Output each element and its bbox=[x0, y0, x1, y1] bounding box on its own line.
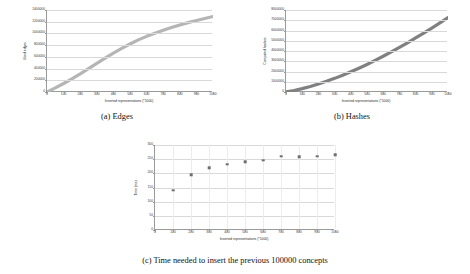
data-point bbox=[298, 155, 301, 158]
chart-edges: 0200000400000600000800000100000012000001… bbox=[8, 6, 226, 106]
y-tick-label: 1400000 bbox=[32, 8, 45, 11]
y-tick-label: 2000000 bbox=[271, 70, 284, 73]
x-tick-mark bbox=[245, 230, 246, 232]
y-tick-label: 6000000 bbox=[271, 29, 284, 32]
gridline-horizontal bbox=[286, 51, 447, 52]
x-tick-mark bbox=[173, 230, 174, 232]
gridline-vertical bbox=[209, 145, 210, 229]
x-axis-title-insert-time: Inserted representations (*1000) bbox=[154, 237, 334, 241]
y-tick-mark bbox=[153, 159, 155, 160]
chart-hashes: 0100000020000003000000400000050000006000… bbox=[243, 6, 461, 106]
data-point bbox=[226, 163, 229, 166]
x-tick-mark bbox=[209, 230, 210, 232]
x-tick-mark bbox=[180, 92, 181, 94]
x-axis-title-hashes: Inserted representations (*1000) bbox=[285, 99, 447, 103]
y-tick-mark bbox=[45, 57, 47, 58]
x-tick-mark bbox=[227, 230, 228, 232]
y-tick-mark bbox=[45, 45, 47, 46]
y-axis-title-edges: Used edges bbox=[23, 42, 27, 60]
gridline-vertical bbox=[245, 145, 246, 229]
data-point bbox=[244, 161, 247, 164]
y-tick-mark bbox=[153, 216, 155, 217]
y-tick-label: 400000 bbox=[34, 67, 45, 70]
x-tick-mark bbox=[383, 92, 384, 94]
gridline-horizontal bbox=[286, 82, 447, 83]
gridline-vertical bbox=[263, 145, 264, 229]
y-tick-label: 1200000 bbox=[32, 20, 45, 23]
gridline-horizontal bbox=[47, 10, 212, 11]
x-tick-mark bbox=[191, 230, 192, 232]
x-tick-mark bbox=[263, 230, 264, 232]
y-tick-mark bbox=[284, 82, 286, 83]
caption-hashes: (b) Hashes bbox=[243, 112, 461, 122]
x-tick-mark bbox=[47, 92, 48, 94]
gridline-horizontal bbox=[47, 22, 212, 23]
x-tick-mark bbox=[335, 92, 336, 94]
x-tick-mark bbox=[163, 92, 164, 94]
y-tick-label: 8000000 bbox=[271, 8, 284, 11]
x-tick-mark bbox=[416, 92, 417, 94]
gridline-horizontal bbox=[286, 41, 447, 42]
gridline-horizontal bbox=[286, 61, 447, 62]
x-tick-mark bbox=[317, 230, 318, 232]
x-tick-mark bbox=[432, 92, 433, 94]
chart-insert-time: 0501001502002503000100200300400500600700… bbox=[118, 140, 353, 245]
x-tick-mark bbox=[399, 92, 400, 94]
x-tick-mark bbox=[448, 92, 449, 94]
y-tick-label: 800000 bbox=[34, 43, 45, 46]
x-tick-mark bbox=[302, 92, 303, 94]
y-tick-mark bbox=[153, 173, 155, 174]
y-tick-label: 4000000 bbox=[271, 49, 284, 52]
gridline-horizontal bbox=[286, 10, 447, 11]
x-tick-mark bbox=[196, 92, 197, 94]
x-tick-mark bbox=[130, 92, 131, 94]
y-tick-mark bbox=[284, 10, 286, 11]
y-axis-title-hashes: Computed hashes bbox=[263, 37, 267, 65]
x-tick-mark bbox=[64, 92, 65, 94]
y-tick-mark bbox=[284, 31, 286, 32]
y-tick-mark bbox=[284, 72, 286, 73]
y-tick-mark bbox=[45, 10, 47, 11]
data-point bbox=[280, 155, 283, 158]
y-tick-mark bbox=[284, 51, 286, 52]
y-tick-label: 600000 bbox=[34, 55, 45, 58]
x-tick-mark bbox=[335, 230, 336, 232]
plot-area-insert-time: 0501001502002503000100200300400500600700… bbox=[154, 145, 334, 230]
x-tick-mark bbox=[351, 92, 352, 94]
x-tick-mark bbox=[213, 92, 214, 94]
y-tick-label: 200000 bbox=[34, 79, 45, 82]
y-tick-mark bbox=[45, 22, 47, 23]
gridline-horizontal bbox=[47, 69, 212, 70]
y-tick-mark bbox=[284, 20, 286, 21]
gridline-horizontal bbox=[47, 45, 212, 46]
gridline-vertical bbox=[173, 145, 174, 229]
gridline-vertical bbox=[227, 145, 228, 229]
y-tick-mark bbox=[153, 202, 155, 203]
plot-area-hashes: 0100000020000003000000400000050000006000… bbox=[285, 10, 447, 92]
gridline-horizontal bbox=[286, 31, 447, 32]
y-tick-mark bbox=[284, 61, 286, 62]
y-axis-title-insert-time: Time (ms) bbox=[134, 180, 138, 195]
x-tick-mark bbox=[80, 92, 81, 94]
gridline-horizontal bbox=[47, 80, 212, 81]
data-point bbox=[190, 173, 193, 176]
x-tick-mark bbox=[155, 230, 156, 232]
plot-area-edges: 0200000400000600000800000100000012000001… bbox=[46, 10, 212, 92]
x-tick-mark bbox=[147, 92, 148, 94]
gridline-horizontal bbox=[286, 20, 447, 21]
data-point bbox=[172, 189, 175, 192]
gridline-horizontal bbox=[47, 57, 212, 58]
y-tick-label: 1000000 bbox=[32, 32, 45, 35]
y-tick-label: 5000000 bbox=[271, 39, 284, 42]
gridline-horizontal bbox=[286, 72, 447, 73]
y-tick-mark bbox=[45, 80, 47, 81]
y-tick-mark bbox=[153, 145, 155, 146]
x-tick-mark bbox=[113, 92, 114, 94]
data-point bbox=[316, 155, 319, 158]
gridline-vertical bbox=[191, 145, 192, 229]
x-tick-mark bbox=[367, 92, 368, 94]
y-tick-mark bbox=[45, 69, 47, 70]
x-tick-mark bbox=[299, 230, 300, 232]
data-point bbox=[262, 159, 265, 162]
x-axis-title-edges: Inserted representations (*1000) bbox=[46, 99, 212, 103]
